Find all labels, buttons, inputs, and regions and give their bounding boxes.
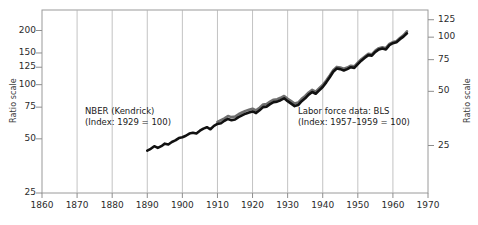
annotation-bls-line2: (Index: 1957–1959 = 100): [298, 117, 410, 128]
x-axis-tick-label: 1870: [62, 200, 92, 210]
x-axis-tick-label: 1940: [308, 200, 338, 210]
ticks-right-label: 25: [438, 140, 464, 150]
ticks-left-label: 100: [10, 79, 36, 89]
annotation-nber-line2: (Index: 1929 = 100): [85, 117, 171, 128]
ticks-left-label: 75: [10, 101, 36, 111]
ticks-left-label: 125: [10, 61, 36, 71]
x-axis-tick-label: 1920: [238, 200, 268, 210]
ticks-left-label: 150: [10, 47, 36, 57]
annotation-bls-line1: Labor force data: BLS: [298, 106, 410, 117]
annotation-bls-labor-force: Labor force data: BLS (Index: 1957–1959 …: [298, 106, 410, 128]
ticks-right-label: 100: [438, 31, 464, 41]
chart-container: Ratio scale Ratio scale 2001501251007550…: [0, 0, 478, 225]
x-axis-tick-label: 1860: [27, 200, 57, 210]
x-axis-tick-label: 1960: [378, 200, 408, 210]
ticks-right-label: 75: [438, 54, 464, 64]
annotation-nber-kendrick: NBER (Kendrick) (Index: 1929 = 100): [85, 106, 171, 128]
y-axis-title-right: Ratio scale: [463, 66, 472, 136]
ticks-right-label: 50: [438, 85, 464, 95]
ticks-left-label: 25: [10, 187, 36, 197]
x-axis-tick-label: 1900: [167, 200, 197, 210]
x-axis-tick-label: 1950: [343, 200, 373, 210]
ticks-left-label: 50: [10, 133, 36, 143]
x-axis-tick-label: 1910: [202, 200, 232, 210]
ticks-right-label: 125: [438, 14, 464, 24]
annotation-nber-line1: NBER (Kendrick): [85, 106, 171, 117]
x-axis-tick-label: 1880: [97, 200, 127, 210]
x-axis-tick-label: 1890: [132, 200, 162, 210]
x-axis-tick-label: 1970: [413, 200, 443, 210]
x-axis-tick-label: 1930: [273, 200, 303, 210]
ticks-left-label: 200: [10, 25, 36, 35]
